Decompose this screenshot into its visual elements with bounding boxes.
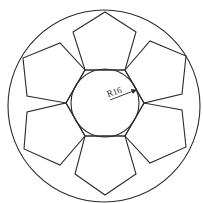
- inner-circle: [71, 69, 139, 137]
- pentagon-upper-right: [125, 41, 186, 103]
- radius-label: R16: [106, 85, 124, 99]
- center-hexagon: [66, 70, 144, 136]
- pentagon-lower-left: [24, 103, 85, 165]
- pentagon-group: [23, 12, 186, 195]
- pentagon-top: [73, 12, 136, 70]
- pentagon-bottom: [75, 136, 136, 195]
- pentagon-upper-left: [23, 43, 85, 103]
- pentagon-lower-right: [125, 103, 186, 163]
- geometry-diagram: R16: [0, 0, 203, 203]
- outer-circle: [8, 10, 200, 202]
